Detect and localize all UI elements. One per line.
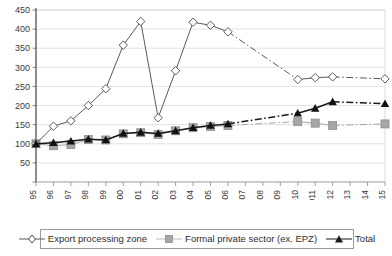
y-axis-tick-label: 450 <box>15 5 30 15</box>
legend-item-export-processing-zone: Export processing zone <box>19 234 147 244</box>
x-axis-tick-label: 1998 <box>80 190 90 200</box>
x-axis-tick-label: 1997 <box>63 190 73 200</box>
x-axis-tick-label: 2010 <box>290 190 300 200</box>
x-axis-tick-label: 2011 <box>307 190 317 200</box>
x-axis-tick-label: 2007 <box>237 190 247 200</box>
y-axis-tick-label: 100 <box>15 139 30 149</box>
legend-item-formal-private-sector: Formal private sector (ex. EPZ) <box>156 234 317 244</box>
x-axis-tick-label: 2009 <box>272 190 282 200</box>
data-point-square <box>381 120 389 128</box>
y-axis-tick-label: 150 <box>15 120 30 130</box>
legend-item-total: Total <box>326 234 375 244</box>
x-axis-tick-label: 1996 <box>45 190 55 200</box>
chart-container: 5010015020025030035040045019951996199719… <box>0 0 392 256</box>
y-axis-tick-label: 250 <box>15 82 30 92</box>
y-axis-tick-label: 350 <box>15 43 30 53</box>
data-point-square <box>294 118 302 126</box>
legend-label-export-processing-zone: Export processing zone <box>48 234 147 244</box>
x-axis-tick-label: 2015 <box>377 190 387 200</box>
legend-marker-diamond-icon <box>19 234 45 244</box>
data-point-square <box>311 119 319 127</box>
x-axis-tick-label: 2003 <box>168 190 178 200</box>
data-point-square <box>329 121 337 129</box>
x-axis-tick-label: 2012 <box>325 190 335 200</box>
x-axis-tick-label: 2005 <box>203 190 213 200</box>
legend-marker-square-icon <box>156 234 182 244</box>
legend-marker-triangle-icon <box>326 234 352 244</box>
plot-area: 5010015020025030035040045019951996199719… <box>0 0 392 200</box>
x-axis-tick-label: 2004 <box>185 190 195 200</box>
chart-legend: Export processing zone Formal private se… <box>40 229 354 249</box>
x-axis-tick-label: 2006 <box>220 190 230 200</box>
line-chart-svg: 5010015020025030035040045019951996199719… <box>0 0 392 200</box>
legend-label-formal-private-sector: Formal private sector (ex. EPZ) <box>185 234 317 244</box>
x-axis-tick-label: 1995 <box>28 190 38 200</box>
x-axis-tick-label: 2001 <box>133 190 143 200</box>
x-axis-tick-label: 2002 <box>150 190 160 200</box>
x-axis-tick-label: 2014 <box>360 190 370 200</box>
y-axis-tick-label: 400 <box>15 24 30 34</box>
x-axis-tick-label: 2013 <box>342 190 352 200</box>
legend-label-total: Total <box>355 234 375 244</box>
x-axis-tick-label: 1999 <box>98 190 108 200</box>
x-axis-tick-label: 2008 <box>255 190 265 200</box>
y-axis-tick-label: 300 <box>15 63 30 73</box>
y-axis-tick-label: 200 <box>15 101 30 111</box>
y-axis-tick-label: 50 <box>20 158 30 168</box>
x-axis-tick-label: 2000 <box>115 190 125 200</box>
